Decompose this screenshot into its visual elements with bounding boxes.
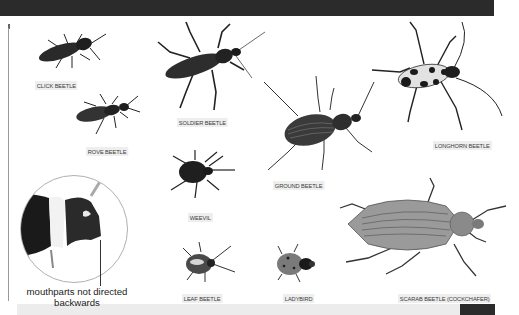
longhorn-beetle-image	[370, 20, 510, 135]
click-beetle-image	[30, 30, 110, 80]
caption-line-1: mouthparts not directed	[16, 286, 138, 297]
leaf-beetle-label: LEAF BEETLE	[182, 294, 222, 303]
leaf-beetle-icon	[175, 240, 245, 285]
ground-beetle-image	[258, 72, 378, 172]
rove-beetle-label: ROVE BEETLE	[86, 147, 128, 156]
weevil-image	[165, 150, 245, 205]
callout-pointer-line	[100, 240, 101, 286]
click-beetle-icon	[30, 30, 110, 80]
footer-tab	[460, 304, 495, 315]
caption-line-2: backwards	[16, 297, 138, 308]
margin-rule	[8, 28, 9, 301]
longhorn-beetle-label: LONGHORN BEETLE	[433, 141, 492, 150]
scarab-beetle-image	[338, 178, 508, 288]
ground-beetle-label: GROUND BEETLE	[273, 181, 324, 190]
rove-beetle-icon	[66, 90, 146, 140]
weevil-icon	[165, 150, 245, 205]
weevil-label: WEEVIL	[188, 213, 213, 222]
longhorn-beetle-icon	[370, 20, 510, 135]
mouthparts-closeup	[20, 175, 128, 283]
leaf-beetle-image	[175, 240, 245, 285]
soldier-beetle-label: SOLDIER BEETLE	[177, 118, 228, 127]
click-beetle-label: CLICK BEETLE	[35, 81, 78, 90]
rove-beetle-image	[66, 90, 146, 140]
soldier-beetle-icon	[150, 22, 265, 112]
scarab-beetle-icon	[338, 178, 508, 288]
header-bar	[0, 0, 494, 16]
mouthparts-caption: mouthparts not directed backwards	[16, 286, 138, 308]
soldier-beetle-image	[150, 22, 265, 112]
ground-beetle-icon	[258, 72, 378, 172]
scarab-beetle-label: SCARAB BEETLE (COCKCHAFER)	[398, 294, 491, 303]
beetle-head-closeup-icon	[21, 176, 128, 283]
ladybird-image	[268, 240, 328, 285]
ladybird-icon	[268, 240, 328, 285]
ladybird-label: LADYBIRD	[283, 294, 314, 303]
